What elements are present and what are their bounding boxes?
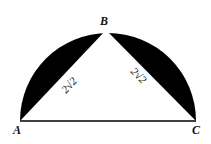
point-label-b: B [99, 14, 108, 28]
semicircle-diagram: A B C 2√2 2√2 [0, 0, 211, 144]
point-label-a: A [12, 123, 21, 137]
point-label-c: C [192, 123, 201, 137]
